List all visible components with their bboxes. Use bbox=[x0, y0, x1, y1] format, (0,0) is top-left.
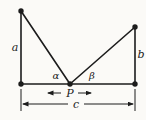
geometry-figure: a b α β P c bbox=[0, 0, 146, 120]
label-side-b: b bbox=[137, 48, 144, 61]
bottom-right-vertex-dot bbox=[132, 81, 137, 86]
label-side-a: a bbox=[12, 41, 19, 54]
triangle-reflection-diagram: a b α β P c bbox=[0, 0, 146, 120]
bottom-left-vertex-dot bbox=[18, 81, 23, 86]
point-p-dot bbox=[67, 81, 72, 86]
label-base-c: c bbox=[73, 98, 79, 111]
label-angle-alpha: α bbox=[53, 70, 60, 81]
label-angle-beta: β bbox=[88, 70, 95, 81]
top-left-vertex-dot bbox=[18, 8, 23, 13]
top-right-vertex-dot bbox=[132, 24, 137, 29]
right-diagonal-segment bbox=[70, 27, 135, 84]
left-diagonal-segment bbox=[21, 11, 70, 84]
